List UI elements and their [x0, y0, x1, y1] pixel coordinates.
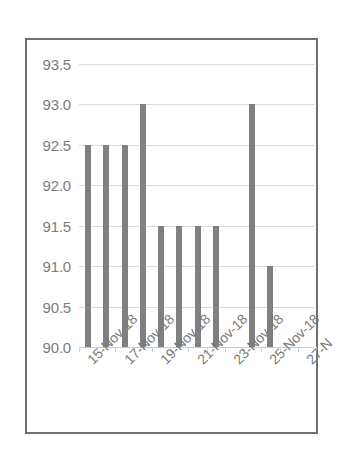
y-tick-label: 90.5: [43, 298, 71, 315]
bar[interactable]: [213, 226, 219, 347]
y-tick-label: 93.0: [43, 96, 71, 113]
bar[interactable]: [140, 104, 146, 347]
bar[interactable]: [103, 145, 109, 347]
bar[interactable]: [249, 104, 255, 347]
bar-chart-figure: 93.593.092.592.091.591.090.590.0 15-Nov-…: [25, 38, 318, 434]
x-axis-labels: 15-Nov-1817-Nov-1819-Nov-1821-Nov-1823-N…: [79, 352, 316, 432]
plot-area: [79, 64, 314, 347]
y-tick-label: 93.5: [43, 56, 71, 73]
bars-layer: [79, 64, 314, 347]
y-tick-label: 92.0: [43, 177, 71, 194]
y-tick-label: 91.5: [43, 217, 71, 234]
y-axis: 93.593.092.592.091.591.090.590.0: [27, 40, 77, 432]
y-tick-label: 91.0: [43, 258, 71, 275]
y-tick-label: 90.0: [43, 339, 71, 356]
bar[interactable]: [176, 226, 182, 347]
y-tick-label: 92.5: [43, 136, 71, 153]
plot-wrapper: 93.593.092.592.091.591.090.590.0 15-Nov-…: [27, 40, 316, 432]
bar[interactable]: [85, 145, 91, 347]
